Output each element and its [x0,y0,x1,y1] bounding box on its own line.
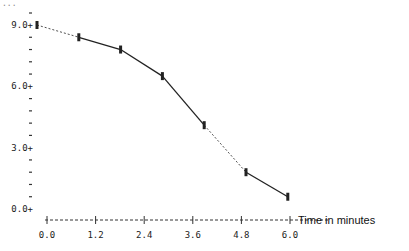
y-tick-label: 3.0+ [11,143,33,153]
data-point-marker [36,21,39,29]
cropped-y-axis-title: ... [2,0,16,8]
series-segment [37,25,79,37]
data-point-marker [161,72,164,80]
data-point-marker [119,46,122,54]
x-tick-label: 1.2 [87,230,103,240]
x-tick-label: 4.8 [233,230,249,240]
x-tick-label: 6.0 [282,230,298,240]
y-tick-label: 0.0+ [11,204,33,214]
x-tick-label: 3.6 [185,230,201,240]
line-chart: ... 0.0+3.0+6.0+9.0+ 0.01.22.43.64.86.0 … [0,0,409,251]
series-segment [204,125,246,172]
data-series [36,21,290,201]
y-tick-label: 6.0+ [11,81,33,91]
y-tick-label: 9.0+ [11,20,33,30]
series-segment [79,37,121,49]
x-axis: 0.01.22.43.64.86.0 [39,216,330,240]
x-tick-label: 0.0 [39,230,55,240]
x-axis-title: Time in minutes [298,214,376,226]
data-point-marker [286,193,289,201]
data-point-marker [245,168,248,176]
series-segment [121,50,163,77]
x-tick-label: 2.4 [136,230,152,240]
y-axis: 0.0+3.0+6.0+9.0+ [11,13,33,214]
series-segment [246,172,288,197]
data-point-marker [203,121,206,129]
series-segment [162,76,204,125]
data-point-marker [77,33,80,41]
